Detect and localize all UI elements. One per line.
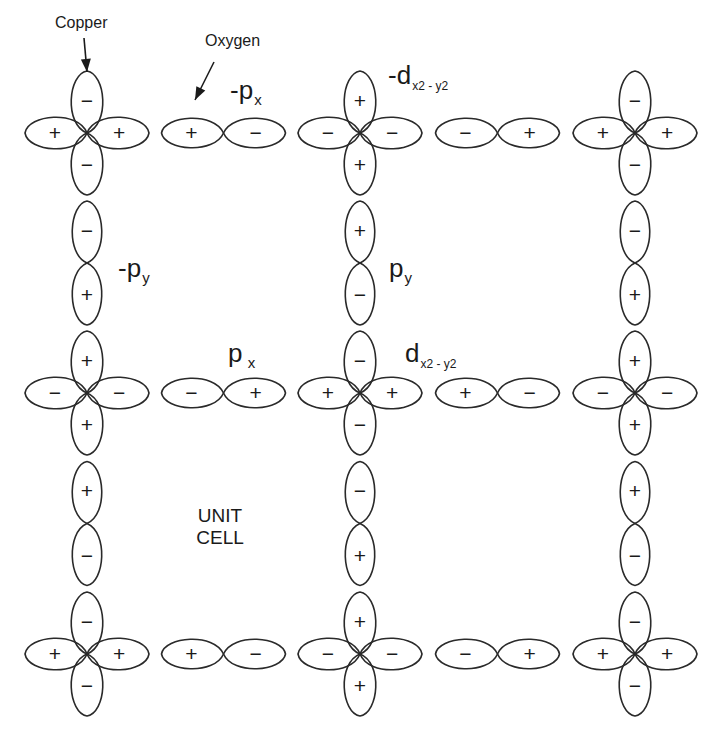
- minus-sign: −: [354, 283, 366, 306]
- copper-lobe-right: +: [635, 117, 697, 149]
- plus-sign: +: [354, 89, 366, 112]
- copper-atom: −−++: [298, 331, 422, 455]
- copper-lobe-bottom: −: [71, 133, 103, 195]
- copper-lobe-bottom: +: [344, 133, 376, 195]
- copper-arrow-icon: [81, 38, 91, 72]
- plus-sign: +: [629, 413, 641, 436]
- oxygen-py-orbital: −+: [345, 462, 374, 586]
- plus-sign: +: [81, 413, 93, 436]
- copper-lobe-top: −: [344, 331, 376, 393]
- minus-sign: −: [81, 674, 93, 697]
- oxygen-py-orbital: +−: [345, 201, 374, 325]
- cuo2-orbital-lattice-diagram: −−++++−−−−++++−−−−++++−−−−++++−−−−++ +−−…: [0, 0, 722, 736]
- copper-lobe-right: +: [87, 117, 149, 149]
- oxygen-lobe-bottom: +: [72, 263, 101, 325]
- lattice-drawing: −−++++−−−−++++−−−−++++−−−−++++−−−−++ +−−…: [0, 0, 722, 736]
- oxygen-py-orbital: +−: [620, 462, 649, 586]
- copper-lobe-top: +: [71, 331, 103, 393]
- copper-atom: −−++: [25, 71, 149, 195]
- plus-sign: +: [185, 642, 197, 665]
- copper-lobe-right: −: [360, 117, 422, 149]
- copper-lobe-left: +: [25, 638, 87, 670]
- copper-lobe-left: −: [298, 117, 360, 149]
- minus-sign: −: [629, 610, 641, 633]
- copper-lobe-bottom: +: [344, 654, 376, 716]
- minus-sign: −: [250, 121, 262, 144]
- oxygen-px-orbital: −+: [436, 639, 560, 668]
- oxygen-px-orbital: +−: [162, 639, 286, 668]
- oxygen-lobe-left: −: [436, 118, 498, 147]
- plus-sign: +: [113, 642, 125, 665]
- copper-lobe-left: +: [573, 117, 635, 149]
- oxygen-lobe-right: −: [224, 639, 286, 668]
- copper-lobe-left: −: [573, 377, 635, 409]
- copper-lobe-bottom: −: [71, 654, 103, 716]
- minus-sign: −: [322, 642, 334, 665]
- plus-sign: +: [81, 283, 93, 306]
- copper-lobe-top: +: [344, 592, 376, 654]
- copper-lobe-right: −: [87, 377, 149, 409]
- copper-lobe-bottom: +: [619, 393, 651, 455]
- minus-sign: −: [81, 89, 93, 112]
- minus-sign: −: [113, 381, 125, 404]
- oxygen-px-orbital: −+: [436, 118, 560, 147]
- plus-sign: +: [49, 121, 61, 144]
- oxygen-lobe-top: +: [620, 462, 649, 524]
- copper-lobe-top: −: [71, 592, 103, 654]
- plus-sign: +: [81, 349, 93, 372]
- orbital-label-py: py: [389, 255, 412, 281]
- plus-sign: +: [354, 544, 366, 567]
- oxygen-lobe-right: +: [498, 118, 560, 147]
- minus-sign: −: [629, 674, 641, 697]
- plus-sign: +: [113, 121, 125, 144]
- plus-sign: +: [459, 381, 471, 404]
- oxygen-lobe-right: −: [498, 378, 560, 407]
- copper-lobe-left: −: [25, 377, 87, 409]
- copper-lobe-left: +: [298, 377, 360, 409]
- minus-sign: −: [386, 121, 398, 144]
- oxygen-lobe-top: −: [72, 201, 101, 263]
- copper-atom: ++−−: [573, 331, 697, 455]
- copper-atom: −−++: [573, 592, 697, 716]
- copper-lobe-right: +: [87, 638, 149, 670]
- plus-sign: +: [354, 674, 366, 697]
- minus-sign: −: [81, 610, 93, 633]
- copper-lobe-bottom: +: [71, 393, 103, 455]
- plus-sign: +: [81, 479, 93, 502]
- oxygen-lobe-bottom: +: [345, 524, 374, 586]
- oxygen-lobe-bottom: −: [620, 524, 649, 586]
- copper-lobe-right: +: [635, 638, 697, 670]
- minus-sign: −: [322, 121, 334, 144]
- copper-lobe-top: −: [619, 592, 651, 654]
- oxygen-px-orbital: +−: [436, 378, 560, 407]
- copper-atom: −−++: [573, 71, 697, 195]
- oxygen-lobe-right: −: [224, 118, 286, 147]
- plus-sign: +: [661, 642, 673, 665]
- oxygen-lobe-left: −: [436, 639, 498, 668]
- minus-sign: −: [597, 381, 609, 404]
- plus-sign: +: [597, 121, 609, 144]
- minus-sign: −: [250, 642, 262, 665]
- copper-label: Copper: [55, 14, 107, 32]
- orbital-label-px: p x: [228, 340, 255, 366]
- copper-lobe-top: −: [619, 71, 651, 133]
- copper-atom: ++−−: [298, 592, 422, 716]
- plus-sign: +: [597, 642, 609, 665]
- copper-lobe-top: −: [71, 71, 103, 133]
- minus-sign: −: [459, 642, 471, 665]
- copper-lobe-right: −: [360, 638, 422, 670]
- oxygen-lobe-bottom: −: [345, 263, 374, 325]
- minus-sign: −: [81, 153, 93, 176]
- oxygen-lobe-bottom: +: [620, 263, 649, 325]
- oxygen-label: Oxygen: [205, 32, 260, 50]
- plus-sign: +: [629, 349, 641, 372]
- plus-sign: +: [661, 121, 673, 144]
- copper-lobe-bottom: −: [344, 393, 376, 455]
- copper-lobe-left: +: [25, 117, 87, 149]
- copper-lobe-top: +: [344, 71, 376, 133]
- copper-lobe-left: −: [298, 638, 360, 670]
- minus-sign: −: [81, 544, 93, 567]
- plus-sign: +: [629, 283, 641, 306]
- plus-sign: +: [354, 610, 366, 633]
- minus-sign: −: [354, 479, 366, 502]
